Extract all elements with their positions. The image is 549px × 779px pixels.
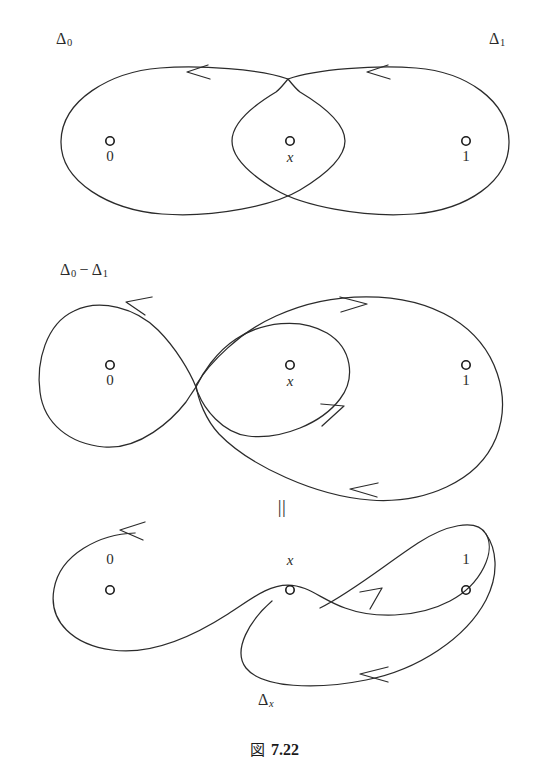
- equals-symbol: ||: [278, 497, 287, 516]
- top-panel-curves: [61, 65, 509, 215]
- middle-outer-loop-top-arrow: [340, 297, 367, 312]
- top-point-label-x: x: [287, 150, 294, 165]
- middle-left-loop-direction-arrow: [126, 297, 152, 315]
- bottom-loop-top-arrow: [120, 522, 145, 540]
- delta-x-label: Δx: [258, 692, 274, 710]
- bottom-point-marker-x: [286, 586, 294, 594]
- middle-panel-curves: [39, 297, 502, 501]
- bottom-point-label-0: 0: [106, 552, 114, 567]
- delta-0-subscript: 0: [67, 37, 73, 48]
- delta-x-subscript: x: [269, 698, 274, 709]
- top-point-label-0: 0: [106, 149, 114, 164]
- top-point-marker-x: [286, 137, 294, 145]
- delta-0-glyph-middle: Δ: [60, 261, 71, 278]
- middle-point-marker-0: [106, 361, 114, 369]
- bottom-point-marker-0: [106, 586, 114, 594]
- top-point-marker-1: [462, 137, 470, 145]
- delta-0-label: Δ0: [56, 31, 72, 49]
- delta-x-glyph: Δ: [258, 691, 269, 708]
- bottom-delta-x-path: [53, 525, 489, 651]
- middle-point-label-1: 1: [462, 373, 470, 388]
- figure-caption: 図7.22: [0, 738, 549, 759]
- bottom-delta-x-lower-path: [241, 534, 495, 686]
- bottom-panel-curves: [53, 522, 495, 686]
- middle-point-label-x: x: [287, 374, 294, 389]
- delta-0-loop-path: [61, 67, 345, 215]
- middle-outer-loop-path: [196, 297, 502, 501]
- bottom-loop-upper-right-arrow: [360, 588, 382, 609]
- middle-point-label-0: 0: [106, 373, 114, 388]
- figure-vector-canvas: [0, 0, 549, 779]
- delta-0-minus-delta-1-label: Δ0−Δ1: [60, 262, 108, 280]
- middle-left-loop-path: [39, 305, 196, 447]
- delta-1-label: Δ1: [489, 31, 505, 49]
- delta-0-glyph: Δ: [56, 30, 67, 47]
- caption-number: 7.22: [265, 741, 299, 758]
- top-point-label-1: 1: [462, 149, 470, 164]
- delta-1-glyph-middle: Δ: [92, 261, 103, 278]
- delta-1-subscript: 1: [500, 37, 506, 48]
- figure-7-22: Δ0 Δ1 0 x 1 Δ0−Δ1 0 x 1 || 0 x 1 Δx 図7.2…: [0, 0, 549, 779]
- middle-point-marker-1: [462, 361, 470, 369]
- delta-1-glyph: Δ: [489, 30, 500, 47]
- middle-inner-loop-around-x-path: [196, 323, 350, 436]
- minus-sign: −: [76, 261, 91, 278]
- middle-point-marker-x: [286, 361, 294, 369]
- delta-1-subscript-middle: 1: [102, 268, 108, 279]
- middle-outer-loop-bottom-arrow: [350, 483, 378, 497]
- caption-word: 図: [250, 741, 265, 759]
- top-point-marker-0: [106, 137, 114, 145]
- delta-1-loop-path: [232, 67, 509, 215]
- bottom-point-label-1: 1: [462, 552, 470, 567]
- bottom-point-label-x: x: [287, 553, 294, 568]
